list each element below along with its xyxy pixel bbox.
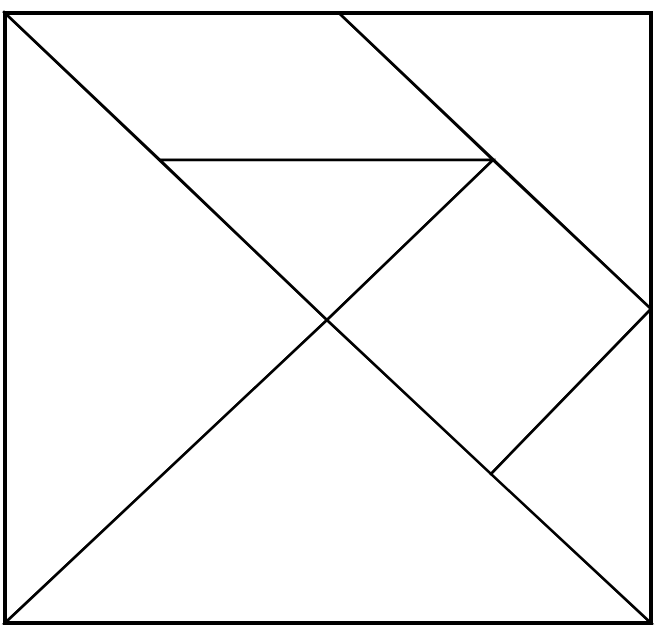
tangram-pieces <box>5 13 651 623</box>
tangram-diagram <box>0 0 656 625</box>
